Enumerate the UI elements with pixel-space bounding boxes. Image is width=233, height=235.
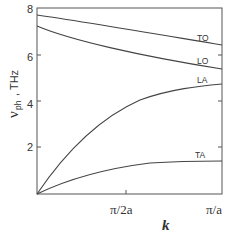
label-lo: LO — [197, 56, 209, 66]
curve-la — [37, 84, 222, 194]
dispersion-chart: 8 6 4 2 ν ph , THz π/2a π/a k TO LO LA T… — [0, 0, 233, 235]
label-to: TO — [197, 33, 209, 43]
y-tick-8: 8 — [27, 3, 33, 15]
y-label-unit: , THz — [8, 70, 20, 96]
x-tick-pi-2a: π/2a — [110, 202, 133, 217]
label-ta: TA — [195, 150, 206, 160]
y-tick-6: 6 — [27, 51, 33, 63]
x-axis-label: k — [162, 217, 170, 233]
curve-ta — [37, 161, 222, 194]
y-axis-label: ν ph , THz — [5, 70, 23, 118]
curve-lo — [37, 26, 222, 69]
y-axis-ticks — [37, 55, 222, 194]
y-tick-2: 2 — [27, 141, 33, 153]
curve-to — [37, 15, 222, 45]
y-label-nu: ν — [5, 111, 21, 118]
x-tick-pi-a: π/a — [206, 202, 222, 217]
label-la: LA — [197, 75, 208, 85]
y-label-sub: ph — [13, 100, 23, 110]
y-tick-4: 4 — [27, 98, 33, 110]
